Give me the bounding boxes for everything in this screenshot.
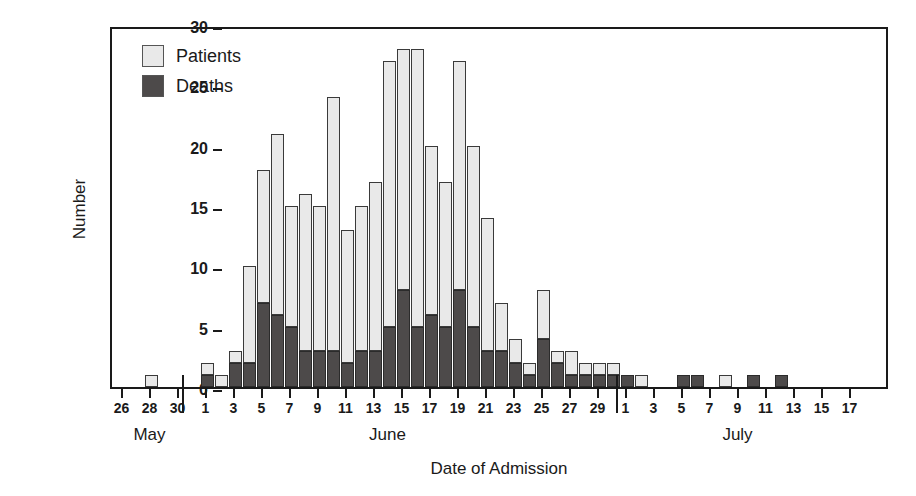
x-tick-mark bbox=[765, 389, 767, 398]
bar-stack bbox=[509, 339, 522, 387]
x-tick-mark bbox=[429, 389, 431, 398]
bar-stack bbox=[523, 363, 536, 387]
x-tick-label: 13 bbox=[366, 400, 382, 416]
bar-segment-deaths bbox=[509, 363, 522, 387]
bar-stack bbox=[271, 134, 284, 387]
bar-segment-deaths bbox=[425, 315, 438, 387]
y-tick-mark bbox=[213, 209, 222, 211]
bar-segment-deaths bbox=[523, 375, 536, 387]
bar-segment-patients bbox=[439, 182, 452, 327]
x-tick-label: 28 bbox=[142, 400, 158, 416]
epidemic-curve-figure: Number Patients Deaths 051015202530 2628… bbox=[0, 0, 916, 496]
bar-segment-deaths bbox=[453, 290, 466, 387]
y-tick-mark bbox=[213, 88, 222, 90]
x-tick-mark bbox=[513, 389, 515, 398]
bar-segment-deaths bbox=[481, 351, 494, 387]
bar-segment-patients bbox=[397, 49, 410, 290]
x-axis: 2628301357911131517192123252729135791113… bbox=[110, 389, 888, 496]
month-separator bbox=[182, 375, 184, 413]
bar-segment-deaths bbox=[397, 290, 410, 387]
x-tick-mark bbox=[121, 389, 123, 398]
bar-segment-patients bbox=[579, 363, 592, 375]
x-tick-mark bbox=[849, 389, 851, 398]
legend-swatch-deaths-icon bbox=[142, 75, 164, 97]
bar-segment-patients bbox=[327, 97, 340, 350]
legend-item-patients: Patients bbox=[142, 41, 241, 71]
x-tick-label: 27 bbox=[562, 400, 578, 416]
bar-segment-deaths bbox=[439, 327, 452, 387]
bar-segment-patients bbox=[509, 339, 522, 363]
bar-segment-patients bbox=[257, 170, 270, 303]
y-tick-label: 5 bbox=[199, 320, 208, 340]
bar-stack bbox=[453, 61, 466, 387]
bar-stack bbox=[775, 375, 788, 387]
bar-segment-deaths bbox=[747, 375, 760, 387]
bar-segment-patients bbox=[341, 230, 354, 363]
x-tick-mark bbox=[737, 389, 739, 398]
bar-stack bbox=[691, 375, 704, 387]
bar-segment-patients bbox=[215, 375, 228, 387]
bar-stack bbox=[257, 170, 270, 387]
bar-segment-patients bbox=[355, 206, 368, 351]
x-tick-label: 7 bbox=[706, 400, 714, 416]
bar-stack bbox=[411, 49, 424, 387]
bar-segment-patients bbox=[285, 206, 298, 327]
bar-segment-patients bbox=[551, 351, 564, 363]
month-label-june: June bbox=[369, 425, 406, 445]
bar-stack bbox=[635, 375, 648, 387]
x-tick-label: 17 bbox=[422, 400, 438, 416]
x-tick-mark bbox=[289, 389, 291, 398]
bar-segment-deaths bbox=[243, 363, 256, 387]
x-tick-mark bbox=[177, 389, 179, 398]
x-tick-mark bbox=[457, 389, 459, 398]
y-tick-mark bbox=[213, 269, 222, 271]
bar-stack bbox=[145, 375, 158, 387]
bar-segment-deaths bbox=[775, 375, 788, 387]
x-tick-label: 9 bbox=[734, 400, 742, 416]
bar-stack bbox=[243, 266, 256, 387]
bar-stack bbox=[495, 303, 508, 387]
bar-segment-deaths bbox=[467, 327, 480, 387]
bar-stack bbox=[747, 375, 760, 387]
bar-stack bbox=[285, 206, 298, 387]
bar-segment-deaths bbox=[313, 351, 326, 387]
bar-segment-deaths bbox=[593, 375, 606, 387]
bar-segment-deaths bbox=[565, 375, 578, 387]
x-tick-label: 26 bbox=[114, 400, 130, 416]
bar-segment-patients bbox=[481, 218, 494, 351]
x-tick-label: 29 bbox=[590, 400, 606, 416]
x-tick-label: 11 bbox=[338, 400, 353, 416]
bar-stack bbox=[579, 363, 592, 387]
x-tick-mark bbox=[233, 389, 235, 398]
x-tick-mark bbox=[317, 389, 319, 398]
bar-segment-deaths bbox=[677, 375, 690, 387]
bar-segment-patients bbox=[719, 375, 732, 387]
bar-segment-patients bbox=[229, 351, 242, 363]
y-tick-mark bbox=[213, 149, 222, 151]
x-tick-label: 21 bbox=[478, 400, 494, 416]
bar-segment-patients bbox=[635, 375, 648, 387]
bar-segment-patients bbox=[607, 363, 620, 375]
y-tick-mark bbox=[213, 330, 222, 332]
x-tick-mark bbox=[261, 389, 263, 398]
bar-segment-deaths bbox=[285, 327, 298, 387]
x-tick-label: 3 bbox=[650, 400, 658, 416]
x-tick-mark bbox=[709, 389, 711, 398]
x-axis-title: Date of Admission bbox=[430, 459, 567, 479]
x-tick-mark bbox=[569, 389, 571, 398]
x-tick-label: 5 bbox=[258, 400, 266, 416]
x-tick-label: 9 bbox=[314, 400, 322, 416]
bar-stack bbox=[215, 375, 228, 387]
bar-segment-patients bbox=[271, 134, 284, 315]
bar-segment-deaths bbox=[621, 375, 634, 387]
bar-stack bbox=[327, 97, 340, 387]
bar-stack bbox=[383, 61, 396, 387]
month-separator bbox=[616, 375, 618, 413]
bar-segment-deaths bbox=[383, 327, 396, 387]
x-tick-label: 1 bbox=[622, 400, 630, 416]
x-tick-mark bbox=[653, 389, 655, 398]
bar-segment-patients bbox=[453, 61, 466, 290]
x-tick-label: 11 bbox=[758, 400, 773, 416]
bar-segment-deaths bbox=[271, 315, 284, 387]
bar-segment-patients bbox=[299, 194, 312, 351]
